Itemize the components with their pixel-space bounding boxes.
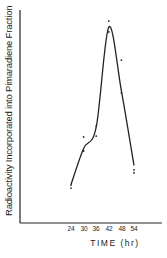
x-tick-24: 24	[64, 225, 78, 232]
data-point	[95, 135, 97, 137]
data-point	[121, 92, 123, 94]
data-point	[70, 184, 72, 186]
data-point	[83, 136, 85, 138]
fitted-curve	[71, 27, 134, 185]
data-point	[121, 59, 123, 61]
data-point	[108, 20, 110, 22]
x-tick-42: 42	[102, 225, 116, 232]
data-point	[83, 150, 85, 152]
x-axis-label: TIME (hr)	[85, 238, 145, 248]
data-point	[133, 169, 135, 171]
data-points	[70, 20, 135, 189]
data-point	[108, 31, 110, 33]
data-point	[70, 187, 72, 189]
data-point	[133, 172, 135, 174]
data-point	[95, 125, 97, 127]
chart-canvas	[0, 0, 167, 258]
y-axis-label: Radioactivity Incorporated into Pimaradi…	[3, 6, 17, 216]
x-tick-54: 54	[127, 225, 141, 232]
x-tick-36: 36	[89, 225, 103, 232]
